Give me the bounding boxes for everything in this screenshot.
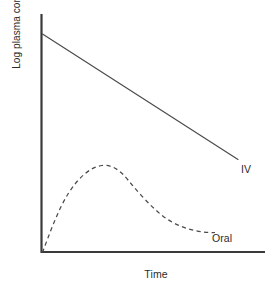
oral-series-curve (43, 165, 216, 252)
oral-curve-label: Oral (212, 233, 232, 244)
y-axis-title: Log plasma concentration of drug (12, 0, 26, 76)
chart-plot-area (0, 0, 272, 292)
pharmacokinetics-chart: Log plasma concentration of drug Time IV… (0, 0, 272, 292)
iv-series-line (43, 34, 239, 160)
iv-curve-label: IV (241, 164, 251, 175)
y-axis-title-text: Log plasma concentration of drug (12, 0, 22, 76)
x-axis-title: Time (133, 269, 179, 280)
